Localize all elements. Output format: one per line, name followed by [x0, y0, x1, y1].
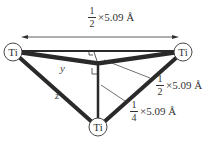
dimension-value: ×5.09 Å — [98, 12, 134, 23]
dimension-value: ×5.09 Å — [140, 106, 176, 117]
bottom-dimension-label: 1 4 ×5.09 Å — [130, 100, 138, 123]
fraction-denominator: 4 — [130, 113, 138, 123]
label-y: y — [60, 62, 65, 74]
fraction-numerator: 1 — [156, 74, 164, 84]
ti-atom-left-label: Ti — [3, 46, 23, 58]
leader-line-bottom — [101, 85, 128, 103]
leader-line-right — [104, 60, 150, 78]
fraction-denominator: 2 — [88, 19, 96, 29]
fraction-numerator: 1 — [130, 100, 138, 110]
label-z: z — [55, 89, 59, 101]
fraction-denominator: 2 — [156, 87, 164, 97]
fraction-numerator: 1 — [88, 6, 96, 16]
dimension-value: ×5.09 Å — [166, 80, 202, 91]
top-dimension-label: 1 2 ×5.09 Å — [88, 6, 96, 29]
right-dimension-label: 1 2 ×5.09 Å — [156, 74, 164, 97]
ti-atom-bottom-label: Ti — [88, 121, 108, 133]
ti-atom-right-label: Ti — [173, 46, 193, 58]
top-dimension-arrow — [21, 35, 179, 39]
